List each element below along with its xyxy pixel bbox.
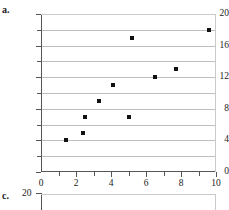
scatter-point <box>153 75 157 79</box>
x-tick-major-4 <box>111 172 112 177</box>
panel-c-top-border <box>41 194 216 195</box>
x-tick-major-2 <box>76 172 77 177</box>
y-tick-major-16 <box>36 46 41 47</box>
x-tick-minor-3 <box>94 172 95 176</box>
scatter-point <box>83 115 87 119</box>
y-tick-minor-10 <box>37 93 41 94</box>
y-tick-minor-2 <box>37 156 41 157</box>
y-tick-major-12 <box>36 77 41 78</box>
y-tick-label-0: 0 <box>191 167 229 177</box>
plot-top-border <box>41 14 216 15</box>
scatter-point <box>174 67 178 71</box>
x-tick-minor-7 <box>164 172 165 176</box>
y-tick-label-4: 4 <box>191 135 229 145</box>
y-tick-major-4 <box>36 140 41 141</box>
scatter-point <box>130 36 134 40</box>
scatter-point <box>111 83 115 87</box>
panel-c-y-axis-top-label: 20 <box>22 188 32 198</box>
y-tick-label-8: 8 <box>191 104 229 114</box>
y-tick-label-12: 12 <box>191 72 229 82</box>
x-tick-minor-5 <box>129 172 130 176</box>
panel-c-partial-chart <box>0 186 229 210</box>
panel-c-y-axis-line <box>41 193 42 210</box>
y-tick-major-0 <box>36 172 41 173</box>
scatter-point <box>127 115 131 119</box>
scatter-point <box>64 138 68 142</box>
x-tick-minor-9 <box>199 172 200 176</box>
y-tick-major-20 <box>36 14 41 15</box>
scatter-point <box>97 99 101 103</box>
y-tick-minor-14 <box>37 61 41 62</box>
scatter-point <box>81 131 85 135</box>
y-tick-minor-18 <box>37 30 41 31</box>
y-tick-major-8 <box>36 109 41 110</box>
x-tick-major-10 <box>216 172 217 177</box>
plot-right-border <box>215 14 216 172</box>
scatter-point <box>207 28 211 32</box>
x-tick-minor-1 <box>59 172 60 176</box>
panel-a-scatter-chart: a. 048121620 0246810 <box>0 0 229 186</box>
panel-a-label: a. <box>2 4 10 15</box>
y-tick-label-20: 20 <box>191 9 229 19</box>
x-tick-major-8 <box>181 172 182 177</box>
figure-container: a. 048121620 0246810 c. 20 <box>0 0 229 210</box>
y-tick-label-16: 16 <box>191 41 229 51</box>
panel-c-right-border <box>215 194 216 210</box>
y-tick-minor-6 <box>37 125 41 126</box>
plot-axes-frame <box>41 14 216 172</box>
x-tick-major-6 <box>146 172 147 177</box>
panel-c-label: c. <box>2 190 9 201</box>
